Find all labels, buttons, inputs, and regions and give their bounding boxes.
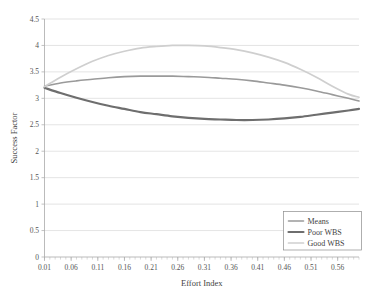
- x-tick-label: 0.06: [65, 263, 78, 272]
- y-tick-label: 1: [35, 200, 39, 209]
- legend-label: Means: [308, 217, 329, 226]
- x-tick-label: 0.11: [91, 263, 104, 272]
- x-tick-label: 0.46: [278, 263, 291, 272]
- y-tick-label: 4.5: [30, 15, 40, 24]
- x-tick-label: 0.51: [304, 263, 317, 272]
- y-axis-ticks: [42, 19, 45, 257]
- data-series: [45, 45, 360, 120]
- x-tick-label: 0.01: [38, 263, 51, 272]
- x-axis-ticks: [45, 257, 338, 261]
- y-tick-label: 0.5: [30, 226, 40, 235]
- x-tick-label: 0.21: [145, 263, 158, 272]
- x-tick-label: 0.26: [171, 263, 184, 272]
- x-tick-label: 0.41: [251, 263, 264, 272]
- y-tick-label: 2.5: [30, 120, 40, 129]
- x-axis-title: Effort Index: [181, 278, 223, 288]
- y-axis-title: Success Factor: [9, 112, 19, 163]
- series-line: [45, 76, 360, 101]
- y-tick-label: 3: [35, 94, 39, 103]
- chart-container: 00.511.522.533.544.5 0.010.060.110.160.2…: [0, 0, 375, 301]
- y-tick-label: 1.5: [30, 173, 40, 182]
- y-tick-label: 4: [35, 41, 39, 50]
- legend-label: Good WBS: [308, 239, 345, 248]
- y-tick-label: 0: [35, 253, 39, 262]
- y-axis-tick-labels: 00.511.522.533.544.5: [30, 15, 40, 262]
- x-tick-label: 0.31: [198, 263, 211, 272]
- gridlines: [45, 19, 360, 231]
- series-line: [45, 88, 360, 120]
- x-axis-tick-labels: 0.010.060.110.160.210.260.310.360.410.46…: [38, 263, 345, 272]
- line-chart: 00.511.522.533.544.5 0.010.060.110.160.2…: [0, 0, 375, 301]
- legend-label: Poor WBS: [308, 228, 342, 237]
- x-tick-label: 0.56: [331, 263, 344, 272]
- y-tick-label: 3.5: [30, 67, 40, 76]
- chart-legend[interactable]: MeansPoor WBSGood WBS: [284, 212, 362, 251]
- y-tick-label: 2: [35, 147, 39, 156]
- x-tick-label: 0.16: [118, 263, 131, 272]
- x-tick-label: 0.36: [225, 263, 238, 272]
